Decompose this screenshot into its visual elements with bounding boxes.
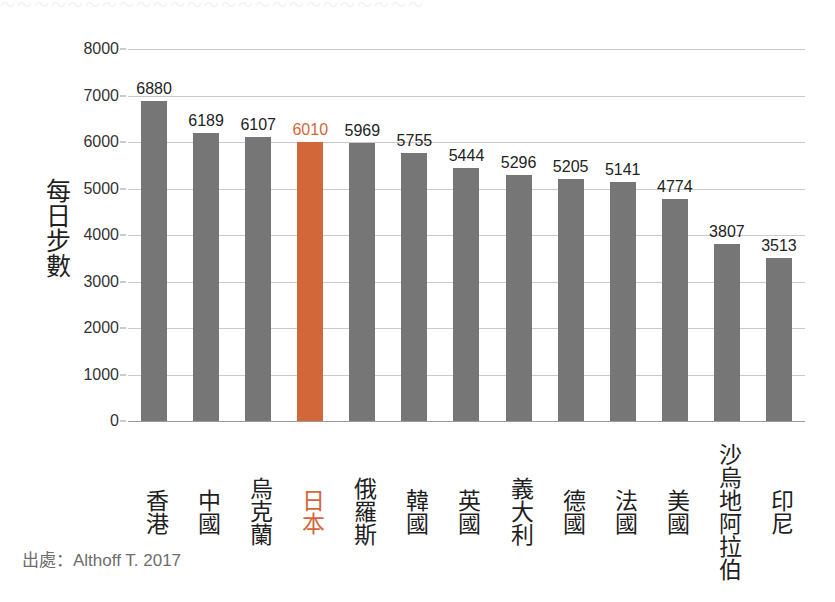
bar-value-label-義大利: 5296 (501, 154, 537, 172)
bar-slot: 6107烏克蘭 (232, 49, 284, 421)
x-axis-label-美國: 美國 (660, 429, 690, 594)
x-axis-label-義大利: 義大利 (504, 429, 534, 594)
y-tick-label-8000: 8000 (83, 40, 119, 58)
y-tick-mark-3000 (120, 281, 126, 282)
bar-value-label-烏克蘭: 6107 (240, 116, 276, 134)
bar-slot: 5141法國 (597, 49, 649, 421)
bar-slot: 6189中國 (180, 49, 232, 421)
bar-slot: 5969俄羅斯 (336, 49, 388, 421)
y-tick-mark-5000 (120, 188, 126, 189)
bar-slot: 6010日本 (284, 49, 336, 421)
y-axis-title: 每日步數 (38, 178, 72, 278)
bar-沙烏地阿拉伯[interactable] (714, 244, 740, 421)
plot-area: 0100020003000400050006000700080006880香港6… (128, 49, 805, 421)
bar-美國[interactable] (662, 199, 688, 421)
bar-value-label-韓國: 5755 (397, 132, 433, 150)
bar-烏克蘭[interactable] (245, 137, 271, 421)
bar-英國[interactable] (453, 168, 479, 421)
source-note: 出處：Althoff T. 2017 (22, 546, 181, 571)
x-axis-label-法國: 法國 (608, 429, 638, 594)
x-axis-label-中國: 中國 (191, 429, 221, 594)
y-tick-mark-2000 (120, 328, 126, 329)
y-tick-label-6000: 6000 (83, 133, 119, 151)
bar-slot: 5205德國 (545, 49, 597, 421)
x-axis-label-印尼: 印尼 (764, 429, 794, 594)
y-tick-mark-0 (120, 421, 126, 422)
bar-法國[interactable] (610, 182, 636, 421)
bar-俄羅斯[interactable] (349, 143, 375, 421)
bar-value-label-德國: 5205 (553, 158, 589, 176)
y-tick-label-3000: 3000 (83, 273, 119, 291)
bar-slot: 4774美國 (649, 49, 701, 421)
x-axis-label-日本: 日本 (295, 429, 325, 594)
bar-印尼[interactable] (766, 258, 792, 421)
bar-香港[interactable] (141, 101, 167, 421)
y-tick-mark-8000 (120, 49, 126, 50)
bar-slot: 3807沙烏地阿拉伯 (701, 49, 753, 421)
y-tick-mark-4000 (120, 235, 126, 236)
bar-slot: 6880香港 (128, 49, 180, 421)
y-tick-label-5000: 5000 (83, 180, 119, 198)
bar-value-label-中國: 6189 (188, 112, 224, 130)
x-axis-label-俄羅斯: 俄羅斯 (347, 429, 377, 594)
y-tick-label-4000: 4000 (83, 226, 119, 244)
bar-slot: 5755韓國 (388, 49, 440, 421)
bar-value-label-印尼: 3513 (761, 237, 797, 255)
y-tick-label-7000: 7000 (83, 87, 119, 105)
y-tick-mark-6000 (120, 142, 126, 143)
x-axis-label-英國: 英國 (451, 429, 481, 594)
bar-value-label-美國: 4774 (657, 178, 693, 196)
x-axis-label-沙烏地阿拉伯: 沙烏地阿拉伯 (712, 429, 742, 594)
bar-value-label-香港: 6880 (136, 80, 172, 98)
bar-slot: 5296義大利 (493, 49, 545, 421)
y-tick-label-0: 0 (110, 412, 119, 430)
bar-value-label-法國: 5141 (605, 161, 641, 179)
bar-義大利[interactable] (506, 175, 532, 421)
bar-德國[interactable] (558, 179, 584, 421)
y-tick-label-2000: 2000 (83, 319, 119, 337)
bar-日本[interactable] (297, 142, 323, 421)
x-axis-label-烏克蘭: 烏克蘭 (243, 429, 273, 594)
bar-slot: 3513印尼 (753, 49, 805, 421)
x-axis-label-德國: 德國 (556, 429, 586, 594)
gridline-0 (128, 421, 805, 422)
bar-value-label-英國: 5444 (449, 147, 485, 165)
x-axis-label-韓國: 韓國 (399, 429, 429, 594)
bar-value-label-沙烏地阿拉伯: 3807 (709, 223, 745, 241)
bar-韓國[interactable] (401, 153, 427, 421)
y-tick-label-1000: 1000 (83, 366, 119, 384)
bar-slot: 5444英國 (440, 49, 492, 421)
y-tick-mark-1000 (120, 374, 126, 375)
y-tick-mark-7000 (120, 95, 126, 96)
bar-value-label-日本: 6010 (292, 121, 328, 139)
bar-value-label-俄羅斯: 5969 (345, 122, 381, 140)
bar-中國[interactable] (193, 133, 219, 421)
bar-chart-figure: 每日步數 01000200030004000500060007000800068… (0, 0, 835, 602)
